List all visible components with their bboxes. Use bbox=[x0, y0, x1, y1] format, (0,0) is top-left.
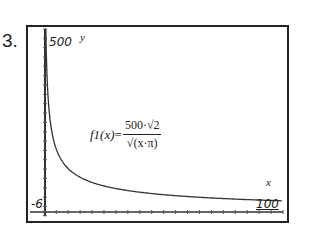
function-curve bbox=[46, 29, 282, 201]
y-max-label: 500 bbox=[49, 35, 72, 49]
x-axis-label: x bbox=[266, 176, 271, 188]
x-max-label: 100 bbox=[256, 197, 279, 211]
fraction: 500·√2 √(x·π) bbox=[123, 118, 162, 151]
function-formula: f1(x) = 500·√2 √(x·π) bbox=[90, 118, 161, 151]
x-min-label: -6 bbox=[31, 197, 43, 211]
y-axis-label: y bbox=[80, 31, 85, 43]
equals-sign: = bbox=[115, 127, 122, 143]
function-name: f1(x) bbox=[90, 127, 115, 143]
numerator: 500·√2 bbox=[123, 118, 162, 135]
x-axis-ticks bbox=[44, 210, 283, 214]
denominator: √(x·π) bbox=[127, 135, 158, 151]
